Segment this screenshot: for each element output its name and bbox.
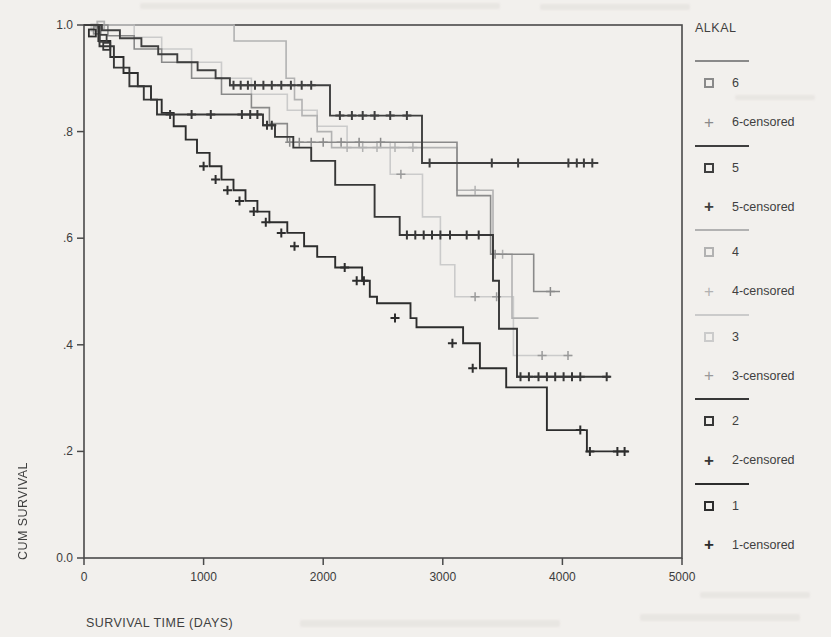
series-2-curve — [84, 25, 610, 377]
legend-mark-cell — [694, 416, 724, 426]
legend-item-label: 1-censored — [732, 538, 795, 552]
legend-item-1: 1 — [694, 499, 830, 513]
legend-item-label: 4-censored — [732, 284, 795, 298]
series-2-censor-marks — [166, 110, 612, 381]
legend-item-3-censored: +3-censored — [694, 369, 830, 383]
legend-item-label: 3-censored — [732, 369, 795, 383]
y-tick-label: .6 — [63, 231, 73, 245]
legend-entries: 6+6-censored5+5-censored4+4-censored3+3-… — [694, 60, 830, 567]
x-tick-label: 4000 — [549, 570, 576, 584]
legend-group-5: 5+5-censored — [694, 145, 830, 230]
y-tick-label: 0.0 — [56, 551, 73, 565]
x-tick-label: 2000 — [310, 570, 337, 584]
legend-mark-cell — [694, 163, 724, 173]
legend-mark-cell — [694, 78, 724, 88]
legend-line-sample-3 — [695, 314, 749, 316]
plot-frame — [84, 25, 682, 558]
legend-mark-cell: + — [694, 538, 724, 551]
legend-line-sample-4 — [695, 229, 749, 231]
y-tick-label: 1.0 — [56, 18, 73, 32]
legend-line-sample-6 — [695, 60, 749, 62]
legend-item-label: 1 — [732, 499, 739, 513]
legend-group-4: 4+4-censored — [694, 229, 830, 314]
legend-mark-cell — [694, 332, 724, 342]
square-marker-icon — [704, 247, 714, 257]
legend-item-6: 6 — [694, 76, 830, 90]
legend-item-3: 3 — [694, 330, 830, 344]
legend-item-2-censored: +2-censored — [694, 453, 830, 467]
legend-group-6: 6+6-censored — [694, 60, 830, 145]
square-marker-icon — [704, 416, 714, 426]
legend-line-sample-5 — [695, 145, 749, 147]
legend-item-5: 5 — [694, 161, 830, 175]
legend-line-sample-1 — [695, 483, 749, 485]
series-4-curve — [84, 25, 539, 318]
legend-item-label: 2-censored — [732, 453, 795, 467]
legend-group-1: 1+1-censored — [694, 483, 830, 568]
plus-censored-marker-icon: + — [704, 200, 714, 213]
legend-mark-cell: + — [694, 116, 724, 129]
legend-item-2: 2 — [694, 414, 830, 428]
legend-item-1-censored: +1-censored — [694, 538, 830, 552]
legend-item-label: 2 — [732, 414, 739, 428]
legend-item-label: 5-censored — [732, 200, 795, 214]
legend-item-label: 5 — [732, 161, 739, 175]
plus-censored-marker-icon: + — [704, 116, 714, 129]
legend-group-2: 2+2-censored — [694, 398, 830, 483]
legend-item-label: 6-censored — [732, 115, 795, 129]
legend-line-sample-2 — [695, 398, 749, 400]
legend-mark-cell: + — [694, 200, 724, 213]
legend-mark-cell — [694, 247, 724, 257]
square-marker-icon — [704, 501, 714, 511]
y-axis-title: CUM SURVIVAL — [16, 424, 30, 560]
legend-item-label: 4 — [732, 245, 739, 259]
legend: ALKAL 6+6-censored5+5-censored4+4-censor… — [694, 21, 830, 567]
legend-item-label: 3 — [732, 330, 739, 344]
x-tick-label: 0 — [81, 570, 88, 584]
plus-censored-marker-icon: + — [704, 538, 714, 551]
series-4-censor-marks — [343, 143, 508, 259]
scanned-page: 0.0.2.4.6.81.0010002000300040005000 CUM … — [0, 0, 831, 637]
legend-mark-cell: + — [694, 454, 724, 467]
legend-item-4: 4 — [694, 245, 830, 259]
square-marker-icon — [704, 78, 714, 88]
series-1-censor-marks — [199, 162, 629, 456]
x-tick-label: 3000 — [429, 570, 456, 584]
y-tick-label: .2 — [63, 444, 73, 458]
legend-group-3: 3+3-censored — [694, 314, 830, 399]
plus-censored-marker-icon: + — [704, 285, 714, 298]
y-tick-label: .8 — [63, 125, 73, 139]
x-axis-title: SURVIVAL TIME (DAYS) — [86, 616, 233, 630]
series-1-curve — [84, 25, 628, 451]
plus-censored-marker-icon: + — [704, 454, 714, 467]
y-tick-label: .4 — [63, 338, 73, 352]
legend-item-label: 6 — [732, 76, 739, 90]
square-marker-icon — [704, 163, 714, 173]
plus-censored-marker-icon: + — [704, 369, 714, 382]
legend-item-6-censored: +6-censored — [694, 115, 830, 129]
x-tick-label: 5000 — [669, 570, 696, 584]
legend-mark-cell — [694, 501, 724, 511]
square-marker-icon — [704, 332, 714, 342]
x-tick-label: 1000 — [190, 570, 217, 584]
series-6-curve — [84, 25, 560, 292]
legend-mark-cell: + — [694, 369, 724, 382]
legend-item-5-censored: +5-censored — [694, 200, 830, 214]
legend-title: ALKAL — [695, 21, 830, 35]
legend-item-4-censored: +4-censored — [694, 284, 830, 298]
legend-mark-cell: + — [694, 285, 724, 298]
